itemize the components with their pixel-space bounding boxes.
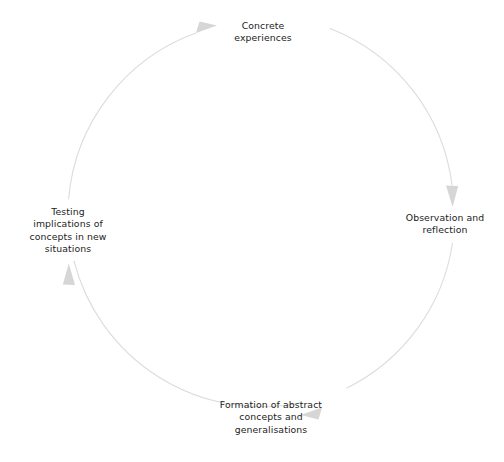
node-label-testing-implications: Testing implications of concepts in new … (4, 206, 132, 256)
cycle-diagram: Concrete experiences Observation and ref… (0, 0, 504, 462)
arc-segment-top-right (330, 28, 452, 185)
node-label-formation-abstract-concepts: Formation of abstract concepts and gener… (195, 399, 347, 436)
arc-segment-bottom-left (74, 261, 300, 407)
arc-segment-left-top (69, 33, 196, 199)
arc-segment-right-bottom (347, 243, 453, 388)
node-label-observation-reflection: Observation and reflection (378, 212, 504, 237)
node-label-concrete-experiences: Concrete experiences (196, 20, 330, 45)
footer-artifact-text (252, 448, 502, 460)
arrow-left-icon (63, 264, 75, 286)
arrow-right-icon (446, 186, 458, 208)
